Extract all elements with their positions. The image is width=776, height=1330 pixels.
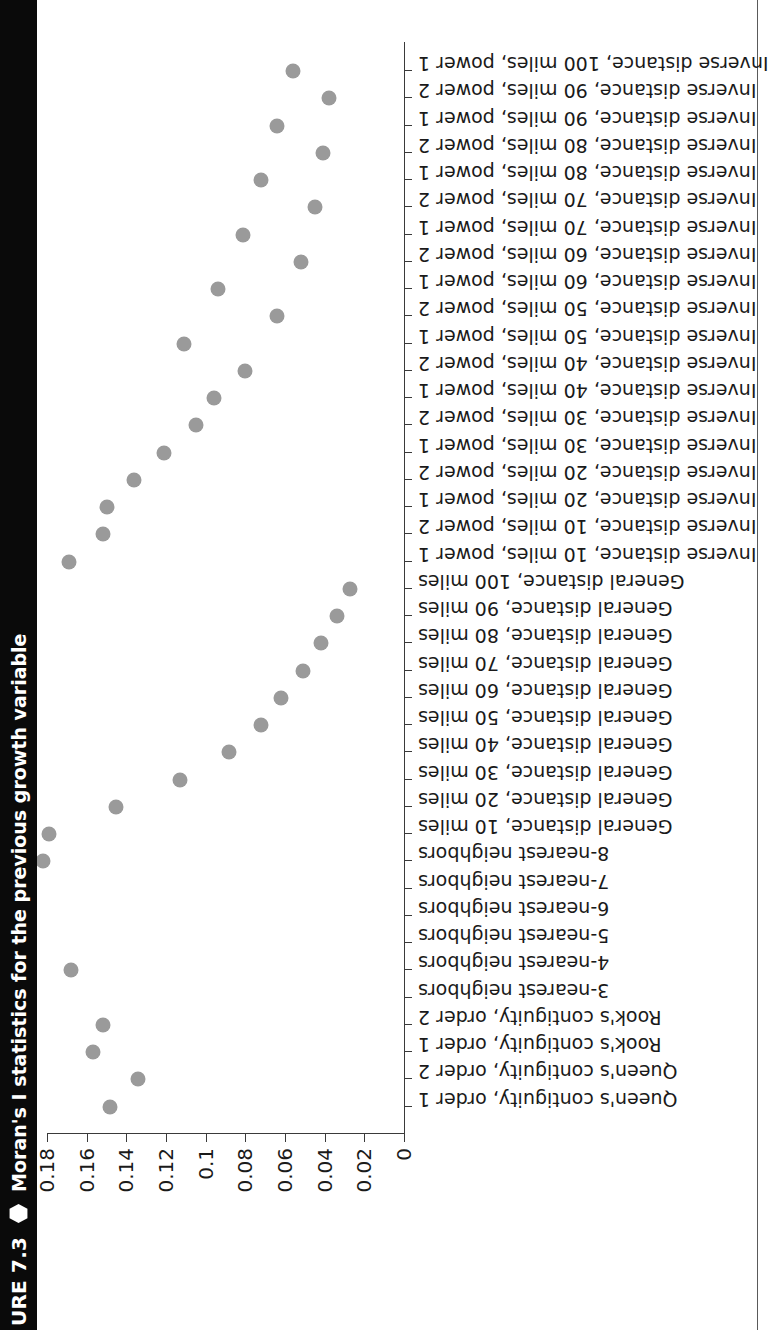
value-tick — [87, 1134, 88, 1142]
category-tick — [404, 752, 412, 753]
category-label: General distance, 30 miles — [418, 762, 672, 784]
category-tick — [404, 397, 412, 398]
category-tick — [404, 98, 412, 99]
category-label: Inverse distance, 20 miles, power 2 — [418, 462, 756, 484]
category-label: Inverse distance, 70 miles, power 2 — [418, 190, 756, 212]
data-point — [176, 336, 191, 351]
value-tick-label: 0.18 — [37, 1148, 59, 1193]
category-tick — [404, 942, 412, 943]
category-tick — [404, 615, 412, 616]
category-label: 5-nearest neighbors — [418, 925, 609, 947]
value-tick-label: 0.1 — [194, 1148, 218, 1180]
category-tick — [404, 479, 412, 480]
data-point — [222, 745, 237, 760]
category-tick — [404, 724, 412, 725]
category-tick — [404, 316, 412, 317]
category-tick — [404, 1024, 412, 1025]
category-label: General distance, 50 miles — [418, 707, 672, 729]
data-point — [315, 146, 330, 161]
category-tick — [404, 425, 412, 426]
category-tick — [404, 534, 412, 535]
data-point — [321, 91, 336, 106]
figure-title: Moran's I statistics for the previous gr… — [8, 634, 30, 1192]
data-point — [293, 255, 308, 270]
value-tick — [166, 1134, 167, 1142]
category-label: Inverse distance, 20 miles, power 1 — [418, 489, 756, 511]
data-point — [127, 473, 142, 488]
category-label: Inverse distance, 50 miles, power 1 — [418, 326, 756, 348]
category-label: General distance, 20 miles — [418, 789, 672, 811]
category-tick — [404, 697, 412, 698]
category-tick — [404, 452, 412, 453]
value-tick-label: 0.08 — [233, 1148, 257, 1193]
category-tick — [404, 1051, 412, 1052]
category-tick — [404, 915, 412, 916]
category-tick — [404, 806, 412, 807]
category-tick — [404, 152, 412, 153]
category-tick — [404, 997, 412, 998]
category-tick — [404, 261, 412, 262]
category-tick — [404, 561, 412, 562]
data-point — [95, 1018, 110, 1033]
category-label: General distance, 10 miles — [418, 816, 672, 838]
category-label: Inverse distance, 60 miles, power 2 — [418, 244, 756, 266]
category-label: 8-nearest neighbors — [418, 844, 609, 866]
data-point — [254, 173, 269, 188]
data-point — [274, 691, 289, 706]
data-point — [99, 500, 114, 515]
category-label: Inverse distance, 30 miles, power 2 — [418, 408, 756, 430]
category-label: 6-nearest neighbors — [418, 898, 609, 920]
category-label: Rook's contiguity, order 2 — [418, 1007, 662, 1029]
value-tick — [404, 1134, 405, 1142]
value-tick-label: 0.02 — [352, 1148, 376, 1193]
hexagon-icon — [9, 1204, 28, 1223]
category-label: Rook's contiguity, order 1 — [418, 1034, 662, 1056]
category-label: Inverse distance, 90 miles, power 2 — [418, 81, 756, 103]
category-tick — [404, 70, 412, 71]
category-tick — [404, 861, 412, 862]
data-point — [236, 227, 251, 242]
category-label: Inverse distance, 10 miles, power 1 — [418, 544, 756, 566]
category-tick — [404, 970, 412, 971]
value-tick — [245, 1134, 246, 1142]
category-label: Inverse distance, 90 miles, power 1 — [418, 108, 756, 130]
data-point — [343, 582, 358, 597]
data-point — [210, 282, 225, 297]
value-tick-label: 0.14 — [114, 1148, 138, 1193]
category-label: Queen's contiguity, order 1 — [418, 1089, 677, 1111]
category-label: Inverse distance, 10 miles, power 2 — [418, 517, 756, 539]
chart-region: 00.020.040.060.080.10.120.140.160.18 Que… — [37, 0, 776, 1330]
value-tick — [126, 1134, 127, 1142]
data-point — [270, 309, 285, 324]
category-tick — [404, 125, 412, 126]
value-tick — [206, 1134, 207, 1142]
data-point — [295, 663, 310, 678]
value-tick — [47, 1134, 48, 1142]
data-point — [206, 391, 221, 406]
category-label: General distance, 40 miles — [418, 735, 672, 757]
figure-caption-band: URE 7.3 Moran's I statistics for the pre… — [0, 0, 37, 1330]
data-point — [103, 1099, 118, 1114]
category-label: Inverse distance, 80 miles, power 1 — [418, 162, 756, 184]
category-label: Inverse distance, 100 miles, power 1 — [418, 53, 769, 75]
category-label: 3-nearest neighbors — [418, 980, 609, 1002]
data-point — [307, 200, 322, 215]
data-point — [95, 527, 110, 542]
category-tick — [404, 1079, 412, 1080]
category-label: General distance, 70 miles — [418, 653, 672, 675]
data-point — [329, 609, 344, 624]
data-point — [63, 963, 78, 978]
category-label: Queen's contiguity, order 2 — [418, 1062, 677, 1084]
value-axis-line — [47, 1133, 404, 1134]
data-point — [270, 118, 285, 133]
category-label: General distance, 60 miles — [418, 680, 672, 702]
category-tick — [404, 888, 412, 889]
category-label: Inverse distance, 50 miles, power 2 — [418, 299, 756, 321]
category-tick — [404, 207, 412, 208]
figure-number: URE 7.3 — [7, 1237, 31, 1326]
value-tick-label: 0 — [392, 1148, 416, 1161]
data-point — [254, 718, 269, 733]
category-tick — [404, 370, 412, 371]
category-tick — [404, 833, 412, 834]
data-point — [61, 554, 76, 569]
